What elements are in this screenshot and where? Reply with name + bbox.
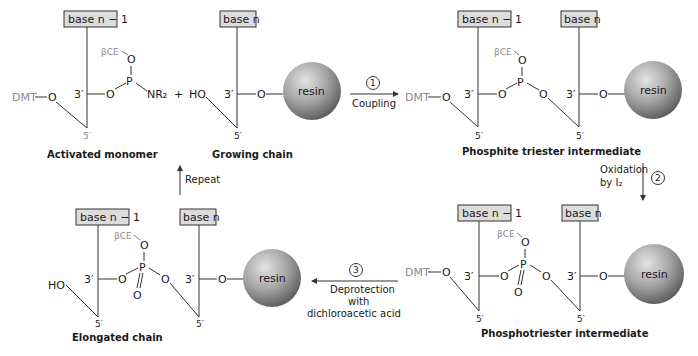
oligonucleotide-synthesis-diagram: base n − 1 3′ 5′ DMT O O P O βCE NR₂ Act… bbox=[0, 0, 698, 356]
svg-text:3: 3 bbox=[353, 265, 359, 275]
svg-text:3′: 3′ bbox=[84, 273, 94, 286]
bce-label: βCE bbox=[101, 47, 119, 57]
svg-text:by I₂: by I₂ bbox=[600, 177, 622, 188]
svg-text:P: P bbox=[126, 75, 133, 88]
svg-text:base n − 1: base n − 1 bbox=[80, 211, 140, 224]
svg-text:P: P bbox=[139, 261, 146, 274]
base-label: base n − 1 bbox=[68, 13, 128, 26]
svg-text:5′: 5′ bbox=[196, 319, 204, 329]
svg-text:O: O bbox=[500, 270, 509, 283]
svg-text:O: O bbox=[218, 273, 227, 286]
svg-text:5′: 5′ bbox=[83, 131, 91, 141]
svg-text:3′: 3′ bbox=[566, 88, 576, 101]
svg-text:βCE: βCE bbox=[497, 229, 515, 239]
svg-text:O: O bbox=[599, 270, 608, 283]
step-2-oxidation: Oxidation by I₂ 2 bbox=[600, 163, 665, 200]
svg-text:resin: resin bbox=[641, 268, 668, 281]
svg-text:resin: resin bbox=[259, 272, 286, 285]
svg-text:O: O bbox=[106, 88, 115, 101]
svg-text:3′: 3′ bbox=[567, 270, 577, 283]
svg-text:Repeat: Repeat bbox=[185, 174, 220, 185]
svg-text:O: O bbox=[48, 91, 57, 104]
svg-text:Oxidation: Oxidation bbox=[600, 164, 648, 175]
svg-text:O: O bbox=[542, 270, 551, 283]
svg-text:O: O bbox=[118, 273, 127, 286]
svg-text:P: P bbox=[520, 258, 527, 271]
svg-text:HO: HO bbox=[48, 279, 65, 292]
svg-text:3′: 3′ bbox=[224, 88, 234, 101]
structure-title: Phosphite triester intermediate bbox=[462, 146, 641, 157]
structure-title: Elongated chain bbox=[72, 332, 163, 343]
svg-text:resin: resin bbox=[640, 84, 667, 97]
svg-text:HO: HO bbox=[189, 88, 206, 101]
svg-text:dichloroacetic acid: dichloroacetic acid bbox=[307, 308, 401, 319]
svg-text:5′: 5′ bbox=[234, 131, 242, 141]
svg-text:base n − 1: base n − 1 bbox=[462, 13, 522, 26]
svg-text:O: O bbox=[514, 286, 523, 299]
phosphite-triester: DMT O base n − 1 3′ 5′ O P O βCE O base … bbox=[405, 11, 682, 157]
svg-text:5′: 5′ bbox=[577, 314, 585, 324]
svg-text:O: O bbox=[127, 53, 136, 66]
svg-text:3′: 3′ bbox=[185, 273, 195, 286]
repeat-arrow: Repeat bbox=[180, 166, 220, 195]
svg-text:O: O bbox=[539, 88, 548, 101]
svg-text:5′: 5′ bbox=[476, 314, 484, 324]
structure-title: Growing chain bbox=[212, 149, 293, 160]
activated-monomer: base n − 1 3′ 5′ DMT O O P O βCE NR₂ Act… bbox=[12, 11, 167, 160]
svg-text:2: 2 bbox=[655, 173, 661, 183]
svg-text:O: O bbox=[442, 91, 451, 104]
structure-title: Activated monomer bbox=[47, 149, 158, 160]
step-3-deprotection: 3 Deprotection with dichloroacetic acid bbox=[307, 264, 401, 320]
svg-text:base n: base n bbox=[223, 13, 260, 26]
svg-text:3′: 3′ bbox=[464, 270, 474, 283]
svg-text:O: O bbox=[257, 88, 266, 101]
elongated-chain: HO base n − 1 3′ 5′ O P O βCE O O base n… bbox=[48, 209, 301, 343]
svg-text:DMT: DMT bbox=[405, 91, 430, 104]
svg-text:base n: base n bbox=[565, 207, 602, 220]
svg-text:DMT: DMT bbox=[405, 266, 430, 279]
step-1-coupling: 1 Coupling bbox=[350, 77, 398, 110]
growing-chain: HO base n 3′ 5′ O resin Growing chain bbox=[189, 11, 341, 160]
svg-text:3′: 3′ bbox=[464, 88, 474, 101]
structure-title: Phosphotriester intermediate bbox=[481, 328, 649, 339]
svg-text:O: O bbox=[133, 289, 142, 302]
svg-text:O: O bbox=[161, 273, 170, 286]
svg-text:1: 1 bbox=[370, 78, 376, 88]
svg-text:NR₂: NR₂ bbox=[147, 88, 167, 101]
svg-text:O: O bbox=[521, 236, 530, 249]
svg-text:with: with bbox=[348, 296, 369, 307]
svg-text:base n − 1: base n − 1 bbox=[462, 207, 522, 220]
svg-text:O: O bbox=[442, 266, 451, 279]
svg-text:O: O bbox=[140, 239, 149, 252]
svg-text:base n: base n bbox=[183, 211, 220, 224]
svg-text:5′: 5′ bbox=[475, 131, 483, 141]
svg-text:O: O bbox=[599, 88, 608, 101]
svg-text:O: O bbox=[518, 54, 527, 67]
svg-text:3′: 3′ bbox=[74, 88, 84, 101]
svg-text:P: P bbox=[517, 76, 524, 89]
svg-text:base n: base n bbox=[564, 13, 601, 26]
svg-text:Deprotection: Deprotection bbox=[330, 284, 395, 295]
svg-text:βCE: βCE bbox=[494, 47, 512, 57]
svg-text:βCE: βCE bbox=[114, 231, 132, 241]
svg-text:resin: resin bbox=[298, 85, 325, 98]
dmt-label: DMT bbox=[12, 91, 37, 104]
svg-text:O: O bbox=[498, 88, 507, 101]
phosphotriester: DMT O base n − 1 3′ 5′ O P O βCE O O bas… bbox=[405, 205, 684, 339]
svg-text:5′: 5′ bbox=[95, 319, 103, 329]
svg-text:Coupling: Coupling bbox=[352, 98, 396, 109]
svg-text:5′: 5′ bbox=[576, 131, 584, 141]
plus-sign: + bbox=[174, 88, 183, 101]
